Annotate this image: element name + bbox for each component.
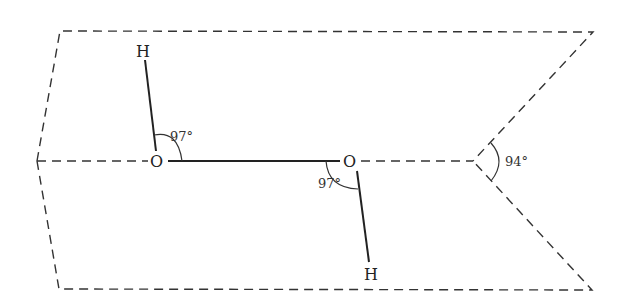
atom-o2: O [343, 152, 356, 171]
angle-label-o1: 97° [170, 129, 193, 144]
angle-label-dihedral: 94° [505, 154, 528, 169]
atom-h1: H [136, 42, 150, 61]
bonds [145, 60, 369, 262]
angle-arc-dihedral [491, 143, 499, 181]
hydrogen-peroxide-diagram: H O O H 97° 97° 94° [0, 0, 623, 308]
upper-plane-outline [37, 31, 593, 161]
bond-o2-h2 [357, 171, 369, 262]
lower-plane-outline [37, 161, 592, 290]
atom-h2: H [364, 265, 378, 284]
bond-h1-o1 [145, 60, 156, 151]
atom-o1: O [150, 152, 163, 171]
angle-label-o2: 97° [318, 176, 341, 191]
